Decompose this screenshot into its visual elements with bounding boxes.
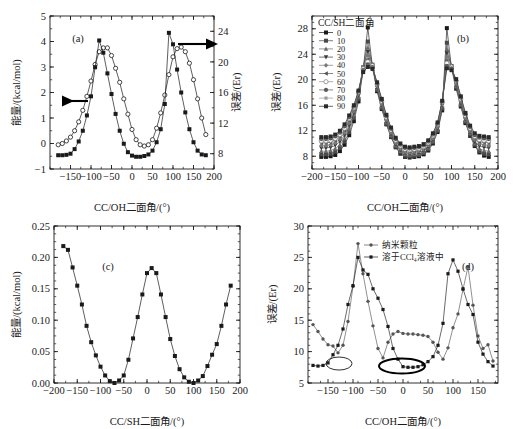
- y2-tick-label: 12: [218, 118, 229, 129]
- x-tick-label: 0: [129, 171, 134, 182]
- x-tick-label: −100: [90, 385, 112, 396]
- y-tick-label: 5: [41, 11, 46, 22]
- annotation-ellipse-small: [326, 357, 352, 370]
- legend-item[interactable]: 90: [319, 102, 345, 111]
- annotations: [326, 357, 425, 374]
- chart-panel-a: −150−100−50050100150200−1012345812162024…: [0, 0, 258, 215]
- y-axis-label: 能量/(kcal/mol): [10, 59, 23, 126]
- y2-tick-label: 24: [218, 26, 229, 37]
- panel-a: −150−100−50050100150200−1012345812162024…: [0, 0, 258, 215]
- y-tick-label: 0.10: [32, 315, 50, 326]
- y-tick-label: 0.15: [32, 283, 50, 294]
- x-tick-label: 150: [186, 171, 202, 182]
- chart-panel-c: −200−150−100−500501001502000.000.050.100…: [0, 212, 258, 429]
- legend-title: CC/SH二面角: [318, 17, 375, 28]
- x-tick-label: 100: [165, 171, 181, 182]
- y-tick-label: 8: [303, 151, 308, 162]
- panel-b: −200−150−100−5005010015020081216202428CC…: [258, 0, 516, 215]
- legend-panel-d: 纳米颗粒溶于CCl₄溶液中: [364, 239, 444, 262]
- y-axis-label: 能量/(kcal/mol): [10, 271, 23, 338]
- x-tick-label: −150: [60, 171, 82, 182]
- legend-item[interactable]: 溶于CCl₄溶液中: [364, 251, 444, 262]
- x-tick-label: −200: [301, 171, 323, 182]
- x-tick-label: 0: [400, 385, 405, 396]
- y-tick-label: 0.05: [32, 346, 50, 357]
- y2-axis-label: 误差/(Er): [230, 72, 243, 112]
- y-tick-label: 0.00: [32, 378, 50, 389]
- y-tick-label: 0: [41, 138, 46, 149]
- x-tick-label: −150: [66, 385, 88, 396]
- series-group: [56, 31, 208, 159]
- x-tick-label: −100: [342, 385, 364, 396]
- x-tick-label: 150: [470, 385, 486, 396]
- x-tick-label: −50: [374, 171, 390, 182]
- x-tick-label: −50: [103, 171, 119, 182]
- y-tick-label: 0.25: [32, 221, 50, 232]
- x-tick-label: 100: [444, 171, 460, 182]
- y-tick-label: 20: [294, 283, 305, 294]
- panel-d: −150−100−5005010015051015202530CC/OH二面角/…: [258, 212, 516, 429]
- legend-label: 90: [337, 102, 345, 111]
- y-tick-label: 3: [41, 62, 46, 73]
- panel-label: (c): [102, 261, 114, 273]
- x-tick-label: −100: [348, 171, 370, 182]
- series: [56, 45, 208, 148]
- x-tick-label: 150: [467, 171, 483, 182]
- x-tick-label: 50: [165, 385, 176, 396]
- x-tick-label: 150: [209, 385, 225, 396]
- x-tick-label: 100: [186, 385, 202, 396]
- y2-tick-label: 16: [218, 87, 229, 98]
- panel-c: −200−150−100−500501001502000.000.050.100…: [0, 212, 258, 429]
- x-tick-label: −150: [317, 385, 339, 396]
- panel-label: (b): [457, 33, 470, 45]
- y-tick-label: 5: [299, 378, 304, 389]
- legend-label: 溶于CCl₄溶液中: [382, 251, 444, 262]
- y-axis-label: 误差/(Er): [270, 72, 283, 112]
- x-axis-label: CC/SH二面角/(°): [110, 416, 185, 428]
- chart-panel-b: −200−150−100−5005010015020081216202428CC…: [258, 0, 516, 215]
- legend-label: 纳米颗粒: [382, 239, 418, 250]
- y-tick-label: 12: [298, 125, 309, 136]
- y-tick-label: 10: [294, 346, 305, 357]
- y2-tick-label: 20: [218, 57, 229, 68]
- y-tick-label: 2: [41, 87, 46, 98]
- series-group: [61, 244, 232, 385]
- series: [61, 244, 232, 385]
- x-tick-label: 200: [490, 171, 506, 182]
- y2-tick-label: 8: [218, 148, 223, 159]
- x-tick-label: −150: [324, 171, 346, 182]
- legend-item[interactable]: 纳米颗粒: [364, 239, 418, 250]
- x-tick-label: 50: [423, 171, 434, 182]
- x-tick-label: −100: [80, 171, 102, 182]
- y-axis-label: 误差/(Er): [266, 284, 279, 324]
- x-tick-label: 100: [445, 385, 461, 396]
- y-tick-label: 0.20: [32, 252, 50, 263]
- x-axis-label: CC/OH二面角/(°): [365, 416, 442, 428]
- panel-label: (d): [462, 261, 475, 273]
- y-tick-label: 30: [294, 221, 305, 232]
- x-tick-label: −50: [116, 385, 132, 396]
- y-tick-label: 28: [298, 23, 309, 34]
- y-tick-label: 4: [41, 36, 47, 47]
- y-tick-label: 20: [298, 74, 309, 85]
- y-tick-label: 1: [41, 113, 46, 124]
- x-tick-label: 0: [144, 385, 149, 396]
- x-tick-label: 200: [232, 385, 248, 396]
- y-tick-label: 16: [298, 100, 309, 111]
- chart-panel-d: −150−100−5005010015051015202530CC/OH二面角/…: [258, 212, 516, 429]
- x-tick-label: 200: [206, 171, 222, 182]
- y-tick-label: 24: [298, 49, 309, 60]
- y-tick-label: 15: [294, 315, 305, 326]
- x-tick-label: 0: [402, 171, 407, 182]
- x-tick-label: 50: [147, 171, 158, 182]
- y-tick-label: 25: [294, 252, 305, 263]
- panel-label: (a): [72, 33, 84, 45]
- y-tick-label: −1: [35, 164, 46, 175]
- x-tick-label: −50: [370, 385, 386, 396]
- x-tick-label: 50: [423, 385, 434, 396]
